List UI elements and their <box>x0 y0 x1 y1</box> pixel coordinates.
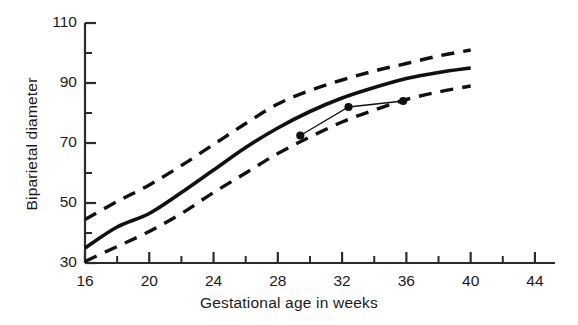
y-tick-label: 90 <box>19 73 77 91</box>
x-tick-label: 32 <box>317 272 367 290</box>
y-tick-label: 110 <box>19 13 77 31</box>
y-tick-label: 70 <box>19 133 77 151</box>
x-tick-label: 16 <box>60 272 110 290</box>
reference-curves <box>85 50 471 262</box>
data-point-marker <box>399 97 407 105</box>
x-tick-label: 20 <box>124 272 174 290</box>
chart-figure: Biparietal diameter Gestational age in w… <box>0 0 578 325</box>
x-tick-label: 36 <box>381 272 431 290</box>
x-tick-label: 40 <box>446 272 496 290</box>
patient-series <box>296 97 407 140</box>
x-tick-label: 24 <box>189 272 239 290</box>
x-tick-label: 28 <box>253 272 303 290</box>
data-point-marker <box>344 103 352 111</box>
y-tick-label: 30 <box>19 253 77 271</box>
lower-reference-band <box>85 86 471 262</box>
x-tick-label: 44 <box>510 272 560 290</box>
data-point-marker <box>296 131 304 139</box>
median-reference-curve <box>85 68 471 248</box>
y-tick-label: 50 <box>19 193 77 211</box>
